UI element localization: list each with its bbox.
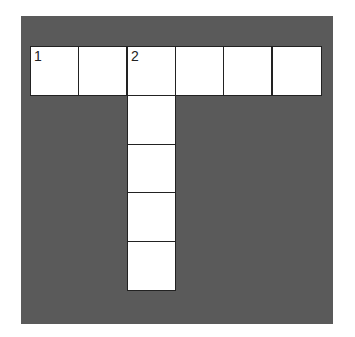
clue-number: 2 bbox=[131, 49, 139, 63]
crossword-board: 1 2 bbox=[21, 16, 333, 324]
cell-r1-c3[interactable]: 2 bbox=[127, 46, 176, 96]
cell-r4-c3[interactable] bbox=[127, 192, 176, 242]
cell-r3-c3[interactable] bbox=[127, 144, 176, 193]
clue-number: 1 bbox=[34, 49, 42, 63]
cell-r1-c4[interactable] bbox=[175, 46, 224, 96]
cell-r1-c5[interactable] bbox=[223, 46, 272, 96]
cell-r1-c1[interactable]: 1 bbox=[30, 46, 79, 96]
cell-r5-c3[interactable] bbox=[127, 241, 176, 291]
cell-r1-c2[interactable] bbox=[78, 46, 127, 96]
cell-r1-c6[interactable] bbox=[272, 46, 322, 96]
cell-r2-c3[interactable] bbox=[127, 95, 176, 145]
